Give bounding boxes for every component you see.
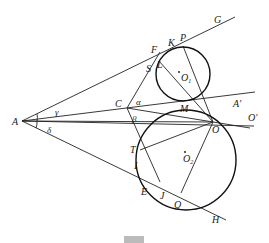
label-delta: δ bbox=[47, 125, 52, 135]
label-I: I bbox=[133, 160, 138, 171]
geometry-diagram: A γ δ C α β F K P G S L O1 M A′ O′ O O2 … bbox=[0, 0, 269, 243]
line-CF bbox=[127, 52, 160, 108]
label-beta: β bbox=[131, 114, 137, 124]
figure-caption-fragment bbox=[124, 236, 144, 243]
label-alpha: α bbox=[136, 97, 141, 107]
label-C: C bbox=[115, 98, 122, 109]
angle-arc-delta bbox=[36, 121, 37, 128]
label-A: A bbox=[11, 116, 19, 127]
line-CO bbox=[127, 108, 213, 122]
label-Q: Q bbox=[174, 199, 182, 210]
label-A-prime: A′ bbox=[232, 98, 242, 109]
label-O1: O1 bbox=[181, 72, 191, 84]
label-K: K bbox=[167, 37, 176, 48]
label-S: S bbox=[146, 63, 151, 74]
label-O2: O2 bbox=[183, 153, 193, 165]
label-G: G bbox=[214, 14, 221, 25]
label-J: J bbox=[160, 190, 165, 201]
label-H: H bbox=[211, 214, 220, 225]
label-O: O bbox=[212, 124, 219, 135]
label-O-prime: O′ bbox=[248, 112, 258, 123]
label-O1-letter: O bbox=[181, 72, 188, 83]
label-gamma: γ bbox=[55, 107, 59, 117]
label-O2-sub: 2 bbox=[190, 159, 193, 165]
line-AH bbox=[22, 121, 226, 220]
label-F: F bbox=[150, 44, 158, 55]
label-L: L bbox=[156, 59, 163, 70]
label-P: P bbox=[179, 32, 186, 43]
label-O2-letter: O bbox=[183, 153, 190, 164]
label-M: M bbox=[179, 103, 189, 114]
label-O1-sub: 1 bbox=[188, 78, 191, 84]
center-dot-O1 bbox=[178, 71, 180, 73]
label-E: E bbox=[140, 186, 147, 197]
